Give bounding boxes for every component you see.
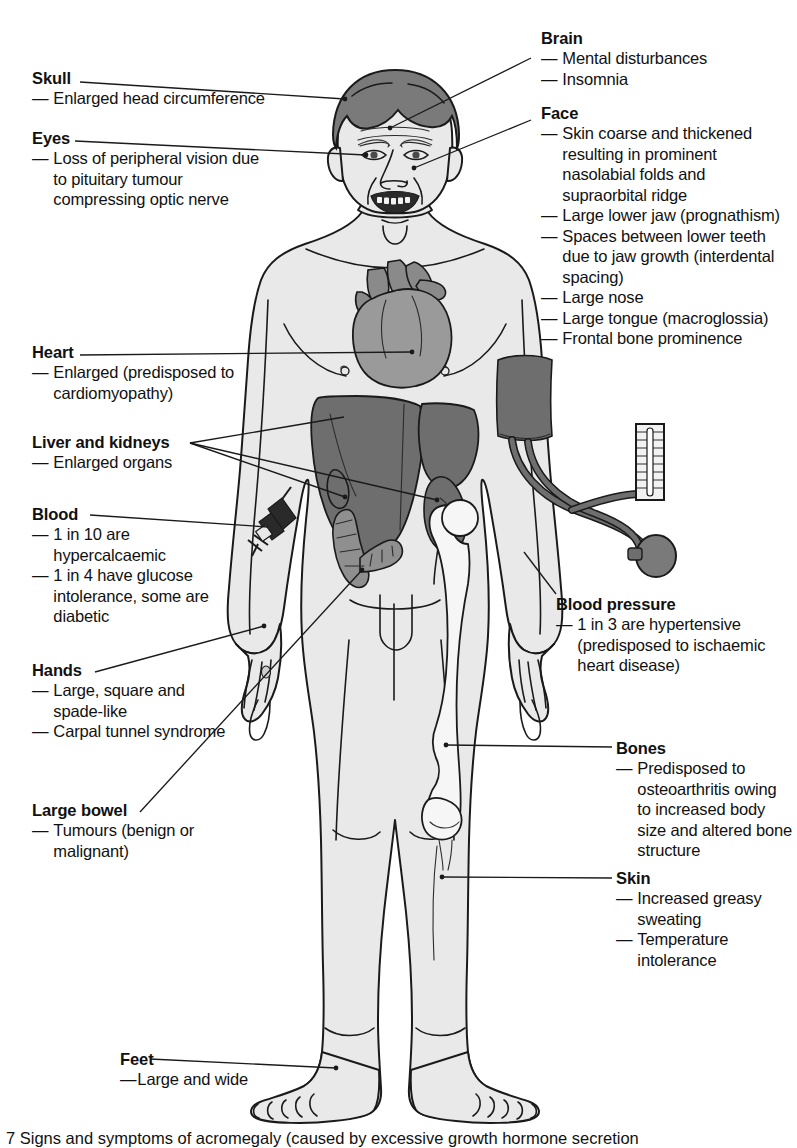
list-item: Increased greasy sweating — [616, 888, 796, 929]
em-dash-icon — [541, 123, 557, 144]
list-item: Skin coarse and thickened resulting in p… — [541, 123, 787, 205]
label-face[interactable]: Face Skin coarse and thickened resulting… — [541, 103, 787, 349]
label-face-items: Skin coarse and thickened resulting in p… — [541, 123, 787, 349]
list-item: Loss of peripheral vision due to pituita… — [32, 148, 260, 210]
label-feet-items: Large and wide — [120, 1069, 310, 1090]
label-brain-items: Mental disturbances Insomnia — [541, 48, 781, 89]
em-dash-icon — [32, 721, 48, 742]
label-brain-heading: Brain — [541, 28, 781, 48]
label-liver-and-kidneys-items: Enlarged organs — [32, 452, 262, 473]
label-feet[interactable]: Feet Large and wide — [120, 1049, 310, 1090]
list-item: 1 in 3 are hypertensive (predisposed to … — [556, 614, 790, 676]
label-blood-pressure-items: 1 in 3 are hypertensive (predisposed to … — [556, 614, 790, 676]
em-dash-icon — [32, 820, 48, 841]
label-eyes-heading: Eyes — [32, 128, 260, 148]
list-item: Mental disturbances — [541, 48, 781, 69]
label-eyes[interactable]: Eyes Loss of peripheral vision due to pi… — [32, 128, 260, 210]
list-item: Large lower jaw (prognathism) — [541, 205, 787, 226]
em-dash-icon — [32, 565, 48, 586]
label-eyes-items: Loss of peripheral vision due to pituita… — [32, 148, 260, 210]
list-item: Carpal tunnel syndrome — [32, 721, 232, 742]
label-face-heading: Face — [541, 103, 787, 123]
em-dash-icon — [616, 929, 632, 950]
label-skull-items: Enlarged head circumference — [32, 88, 302, 109]
label-hands-items: Large, square and spade-like Carpal tunn… — [32, 680, 232, 742]
label-large-bowel-items: Tumours (benign or malignant) — [32, 820, 232, 861]
list-item: Spaces between lower teeth due to jaw gr… — [541, 226, 787, 288]
label-blood-pressure-heading: Blood pressure — [556, 594, 790, 614]
em-dash-icon — [541, 308, 557, 329]
em-dash-icon — [32, 680, 48, 701]
label-blood-heading: Blood — [32, 504, 232, 524]
em-dash-icon — [541, 48, 557, 69]
label-blood-items: 1 in 10 are hypercalcaemic 1 in 4 have g… — [32, 524, 232, 627]
em-dash-icon — [32, 524, 48, 545]
label-liver-and-kidneys[interactable]: Liver and kidneys Enlarged organs — [32, 432, 262, 473]
figure-caption: 7 Signs and symptoms of acromegaly (caus… — [6, 1128, 797, 1148]
em-dash-icon — [541, 287, 557, 308]
label-liver-and-kidneys-heading: Liver and kidneys — [32, 432, 262, 452]
label-skull[interactable]: Skull Enlarged head circumference — [32, 68, 302, 109]
em-dash-icon — [616, 758, 632, 779]
em-dash-icon — [556, 614, 572, 635]
em-dash-icon — [32, 148, 48, 169]
em-dash-icon — [541, 328, 557, 349]
list-item: Insomnia — [541, 69, 781, 90]
label-brain[interactable]: Brain Mental disturbances Insomnia — [541, 28, 781, 89]
label-skin-items: Increased greasy sweating Temperature in… — [616, 888, 796, 970]
label-hands-heading: Hands — [32, 660, 232, 680]
list-item: Predisposed to osteoarthritis owing to i… — [616, 758, 794, 861]
label-blood[interactable]: Blood 1 in 10 are hypercalcaemic 1 in 4 … — [32, 504, 232, 627]
list-item: Large, square and spade-like — [32, 680, 232, 721]
em-dash-icon — [32, 362, 48, 383]
list-item: Large tongue (macroglossia) — [541, 308, 787, 329]
label-skull-heading: Skull — [32, 68, 302, 88]
em-dash-icon — [32, 452, 48, 473]
label-hands[interactable]: Hands Large, square and spade-like Carpa… — [32, 660, 232, 742]
em-dash-icon — [120, 1069, 136, 1090]
list-item: Large and wide — [120, 1069, 310, 1090]
em-dash-icon — [32, 88, 48, 109]
em-dash-icon — [541, 226, 557, 247]
list-item: Large nose — [541, 287, 787, 308]
em-dash-icon — [616, 888, 632, 909]
list-item: 1 in 10 are hypercalcaemic — [32, 524, 232, 565]
em-dash-icon — [541, 205, 557, 226]
label-skin[interactable]: Skin Increased greasy sweating Temperatu… — [616, 868, 796, 970]
list-item: 1 in 4 have glucose intolerance, some ar… — [32, 565, 232, 627]
list-item: Enlarged head circumference — [32, 88, 302, 109]
label-bones-items: Predisposed to osteoarthritis owing to i… — [616, 758, 794, 861]
list-item: Enlarged organs — [32, 452, 262, 473]
list-item: Temperature intolerance — [616, 929, 796, 970]
label-feet-heading: Feet — [120, 1049, 310, 1069]
list-item: Frontal bone prominence — [541, 328, 787, 349]
em-dash-icon — [541, 69, 557, 90]
list-item: Enlarged (predisposed to cardiomyopathy) — [32, 362, 254, 403]
label-skin-heading: Skin — [616, 868, 796, 888]
label-large-bowel-heading: Large bowel — [32, 800, 232, 820]
label-bones-heading: Bones — [616, 738, 794, 758]
label-heart-heading: Heart — [32, 342, 254, 362]
label-heart-items: Enlarged (predisposed to cardiomyopathy) — [32, 362, 254, 403]
label-large-bowel[interactable]: Large bowel Tumours (benign or malignant… — [32, 800, 232, 861]
label-bones[interactable]: Bones Predisposed to osteoarthritis owin… — [616, 738, 794, 861]
label-blood-pressure[interactable]: Blood pressure 1 in 3 are hypertensive (… — [556, 594, 790, 676]
list-item: Tumours (benign or malignant) — [32, 820, 232, 861]
label-heart[interactable]: Heart Enlarged (predisposed to cardiomyo… — [32, 342, 254, 403]
